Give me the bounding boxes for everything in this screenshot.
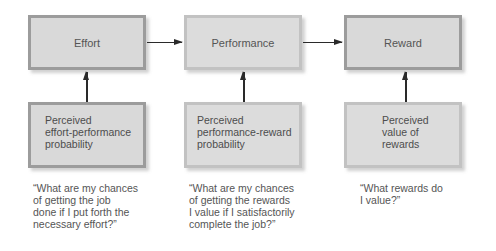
text-line: probability [45, 138, 143, 150]
quote-line: done if I put forth the [33, 206, 138, 218]
text-line: Perceived [197, 114, 299, 126]
text-line: performance-reward [197, 126, 299, 138]
text-line: value of [382, 126, 459, 138]
perceived-effort-performance-box: Perceived effort-performance probability [28, 102, 146, 168]
quote-value-of-rewards: “What rewards do I value?” [360, 182, 443, 206]
quote-line: I value?” [360, 194, 443, 206]
perceived-performance-reward-box: Perceived performance-reward probability [184, 102, 302, 168]
effort-box: Effort [28, 15, 146, 70]
arrow-performance-to-reward [303, 42, 342, 43]
arrow-value-to-reward [405, 72, 407, 102]
perceived-performance-reward-text: Perceived performance-reward probability [197, 114, 299, 150]
quote-effort-performance: “What are my chances of getting the job … [33, 182, 138, 230]
quote-performance-reward: “What are my chances of getting the rewa… [189, 182, 295, 230]
quote-line: “What are my chances [189, 182, 295, 194]
text-line: rewards [382, 138, 459, 150]
perceived-value-of-rewards-box: Perceived value of rewards [344, 102, 462, 168]
text-line: effort-performance [45, 126, 143, 138]
arrow-perf-reward-prob-to-performance [243, 72, 245, 102]
quote-line: “What rewards do [360, 182, 443, 194]
text-line: Perceived [45, 114, 143, 126]
perceived-value-of-rewards-text: Perceived value of rewards [382, 114, 459, 150]
arrow-effort-to-performance [147, 42, 182, 43]
reward-label: Reward [384, 37, 422, 49]
arrow-effort-perf-prob-to-effort [86, 72, 88, 102]
text-line: Perceived [382, 114, 459, 126]
quote-line: necessary effort?” [33, 218, 138, 230]
quote-line: of getting the rewards [189, 194, 295, 206]
quote-line: of getting the job [33, 194, 138, 206]
text-line: probability [197, 138, 299, 150]
quote-line: I value if I satisfactorily [189, 206, 295, 218]
perceived-effort-performance-text: Perceived effort-performance probability [45, 114, 143, 150]
reward-box: Reward [344, 15, 462, 70]
quote-line: complete the job?” [189, 218, 295, 230]
performance-box: Performance [184, 15, 302, 70]
performance-label: Performance [212, 37, 275, 49]
quote-line: “What are my chances [33, 182, 138, 194]
effort-label: Effort [74, 37, 100, 49]
